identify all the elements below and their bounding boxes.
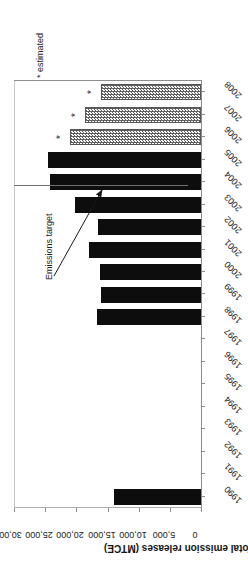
year-label-2007: 2007	[222, 102, 243, 123]
value-tick-10000	[139, 508, 140, 512]
year-label-2000: 2000	[222, 259, 243, 280]
bar-2005	[48, 152, 201, 168]
bar-2002	[98, 219, 201, 235]
year-label-1997: 1997	[222, 326, 243, 347]
year-label-1996: 1996	[222, 349, 243, 370]
value-tick-label-0: 0	[192, 530, 197, 540]
value-tick-label-15000: 15,000	[88, 530, 116, 540]
value-tick-20000	[76, 508, 77, 512]
year-label-1995: 1995	[222, 371, 243, 392]
year-label-1999: 1999	[222, 281, 243, 302]
value-axis-title: Total emission releases (MTCE)	[104, 543, 248, 554]
value-tick-15000	[108, 508, 109, 512]
value-axis-line	[201, 81, 202, 508]
year-label-2005: 2005	[222, 147, 243, 168]
value-tick-label-10000: 10,000	[119, 530, 147, 540]
value-tick-label-5000: 5,000	[153, 530, 176, 540]
value-tick-30000	[14, 508, 15, 512]
value-tick-label-20000: 20,000	[56, 530, 84, 540]
estimated-star-2008: *	[89, 90, 95, 94]
estimated-star-2006: *	[58, 135, 64, 139]
year-label-2008: 2008	[222, 79, 243, 100]
value-tick-0	[201, 508, 202, 512]
bar-1990	[114, 489, 201, 505]
year-label-1990: 1990	[222, 484, 243, 505]
estimated-star-2007: *	[73, 113, 79, 117]
value-tick-25000	[45, 508, 46, 512]
rotated-chart-canvas: 30,00025,00020,00015,00010,0005,0000 199…	[0, 0, 248, 578]
emissions-target-label: Emissions target	[44, 213, 54, 280]
year-label-1998: 1998	[222, 304, 243, 325]
bar-2008	[101, 84, 201, 100]
category-axis-line	[14, 80, 202, 81]
bar-2006	[70, 129, 201, 145]
year-label-2001: 2001	[222, 237, 243, 258]
bar-2007	[85, 107, 201, 123]
value-tick-5000	[170, 508, 171, 512]
bar-1999	[101, 287, 201, 303]
year-label-1993: 1993	[222, 416, 243, 437]
year-label-2006: 2006	[222, 124, 243, 145]
year-label-1994: 1994	[222, 394, 243, 415]
value-tick-label-25000: 25,000	[25, 530, 53, 540]
year-label-2004: 2004	[222, 169, 243, 190]
value-tick-label-30000: 30,000	[0, 530, 22, 540]
year-label-1991: 1991	[222, 461, 243, 482]
chart-screenshot: 30,00025,00020,00015,00010,0005,0000 199…	[0, 0, 248, 578]
bar-2000	[100, 264, 201, 280]
target-callout-arrow	[52, 183, 110, 278]
year-label-2002: 2002	[222, 214, 243, 235]
bar-1998	[97, 309, 201, 325]
year-label-2003: 2003	[222, 192, 243, 213]
year-label-1992: 1992	[222, 439, 243, 460]
estimated-legend-note: * estimated	[35, 33, 45, 78]
